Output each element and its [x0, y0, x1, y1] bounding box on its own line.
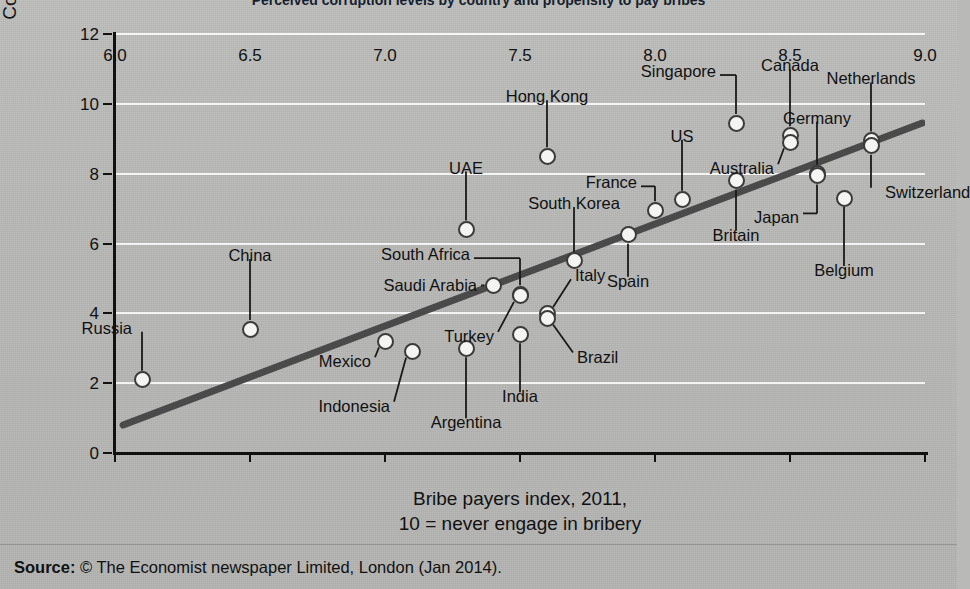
y-axis-tick-label: 0 [63, 445, 99, 462]
data-point-label: Saudi Arabia [383, 277, 477, 294]
source-text: © The Economist newspaper Limited, Londo… [80, 558, 502, 576]
data-point-label: Hong Kong [506, 88, 589, 105]
data-point[interactable] [134, 371, 151, 388]
data-point-label: Singapore [641, 63, 716, 80]
y-axis-tick [103, 243, 112, 245]
data-point-label: Mexico [319, 353, 371, 370]
data-point-label: Brazil [577, 349, 618, 366]
y-axis-tick [103, 103, 112, 105]
y-axis-tick [103, 382, 112, 384]
data-point-label: Netherlands [827, 70, 916, 87]
y-axis-tick [103, 312, 112, 314]
y-axis-tick [103, 452, 112, 454]
y-axis-tick-label: 2 [63, 375, 99, 392]
data-point[interactable] [512, 326, 529, 343]
y-axis-tick-label: 10 [63, 96, 99, 113]
x-axis-title-line1: Bribe payers index, 2011, [115, 487, 925, 512]
data-point-label: Japan [754, 209, 799, 226]
data-point[interactable] [539, 148, 556, 165]
data-point-label: US [671, 128, 694, 145]
data-point-label: Turkey [444, 328, 494, 345]
data-point-label: Australia [710, 160, 774, 177]
data-point[interactable] [809, 167, 826, 184]
data-point[interactable] [377, 333, 394, 350]
data-point-label: South Korea [528, 195, 620, 212]
data-point[interactable] [242, 321, 259, 338]
plot-area: 0246810126.06.57.07.58.08.59.0RussiaChin… [115, 34, 925, 453]
data-point[interactable] [539, 310, 556, 327]
y-axis-title-line2: 10 = least corrupt [22, 0, 46, 60]
data-point-label: Switzerland [885, 184, 970, 201]
scatter-chart: 0246810126.06.57.07.58.08.59.0RussiaChin… [0, 0, 957, 545]
data-point-label: Spain [607, 273, 649, 290]
data-point[interactable] [485, 277, 502, 294]
source-note: Source: © The Economist newspaper Limite… [14, 558, 502, 577]
data-point[interactable] [647, 202, 664, 219]
y-axis-tick-label: 6 [63, 236, 99, 253]
data-point[interactable] [674, 191, 691, 208]
data-point[interactable] [458, 221, 475, 238]
data-point-label: France [586, 174, 637, 191]
data-point-label: Argentina [431, 414, 502, 431]
data-point-label: Belgium [814, 262, 874, 279]
data-point-label: Germany [783, 110, 851, 127]
data-point[interactable] [782, 134, 799, 151]
data-point[interactable] [863, 137, 880, 154]
data-point[interactable] [404, 343, 421, 360]
y-axis-tick-label: 8 [63, 166, 99, 183]
y-axis-title: Corruption perceptions index, 2011, 10 =… [0, 0, 46, 60]
data-point-label: Italy [575, 267, 605, 284]
data-point[interactable] [620, 226, 637, 243]
data-point-label: Russia [82, 320, 132, 337]
y-axis-tick-label: 12 [63, 26, 99, 43]
y-axis-tick [103, 33, 112, 35]
y-axis-title-line1: Corruption perceptions index, 2011, [0, 0, 22, 60]
source-divider [0, 544, 957, 545]
data-point-label: UAE [449, 160, 483, 177]
y-axis-tick [103, 173, 112, 175]
data-point[interactable] [836, 190, 853, 207]
data-point-label: Indonesia [318, 398, 390, 415]
data-point-label: Canada [761, 57, 819, 74]
data-point-label: South Africa [381, 246, 470, 263]
data-point[interactable] [728, 115, 745, 132]
data-point-label: India [502, 388, 538, 405]
x-axis-title: Bribe payers index, 2011, 10 = never eng… [115, 487, 925, 536]
data-point-label: Britain [713, 227, 760, 244]
x-axis-title-line2: 10 = never engage in bribery [115, 512, 925, 537]
source-label: Source: [14, 558, 75, 576]
data-point-label: China [228, 247, 271, 264]
data-point[interactable] [512, 287, 529, 304]
